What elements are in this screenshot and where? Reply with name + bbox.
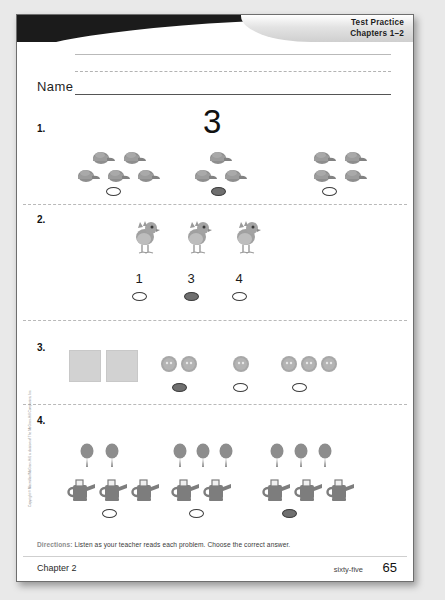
directions-label: Directions: — [37, 541, 73, 548]
chapter-label: Chapter 2 — [37, 563, 77, 573]
watering-can-icon — [260, 477, 292, 507]
button-icon — [160, 355, 178, 377]
button-icon — [300, 355, 318, 377]
button-icon — [180, 355, 198, 377]
cap-icon — [311, 149, 337, 165]
problem-2-choice-label-b: 3 — [181, 271, 201, 286]
answer-bubble-3c[interactable] — [292, 383, 307, 392]
answer-bubble-4c[interactable] — [282, 509, 297, 518]
balloon-icon — [195, 442, 211, 472]
cap-icon — [192, 167, 218, 183]
answer-bubble-2a[interactable] — [132, 292, 147, 301]
name-input-line[interactable] — [75, 94, 391, 95]
chick-icon — [184, 219, 212, 257]
block-icon — [106, 350, 138, 382]
watering-can-icon — [97, 477, 129, 507]
problem-4-number: 4. — [37, 415, 45, 426]
problem-1-number: 1. — [37, 123, 45, 134]
cap-icon — [311, 167, 337, 183]
answer-bubble-4a[interactable] — [102, 509, 117, 518]
printed-page: Test Practice Chapters 1–2 Name 1. 3 — [16, 14, 414, 582]
chick-icon — [233, 219, 261, 257]
answer-bubble-1a[interactable] — [106, 187, 121, 196]
answer-bubble-2c[interactable] — [232, 292, 247, 301]
chick-icon — [132, 219, 160, 257]
section-separator-1 — [23, 204, 407, 205]
watering-can-icon — [129, 477, 161, 507]
page-number: 65 — [383, 560, 397, 575]
answer-bubble-3b[interactable] — [233, 383, 248, 392]
copyright-notice: Copyright © Macmillan/McGraw-Hill, a div… — [28, 357, 32, 507]
answer-bubble-1b[interactable] — [211, 187, 226, 196]
balloon-icon — [218, 442, 234, 472]
header-rule-dashed — [75, 71, 391, 72]
cap-icon — [105, 167, 131, 183]
answer-bubble-3a[interactable] — [172, 383, 187, 392]
watering-can-icon — [292, 477, 324, 507]
banner-text: Test Practice Chapters 1–2 — [350, 18, 404, 39]
watering-can-icon — [169, 477, 201, 507]
balloon-icon — [293, 442, 309, 472]
page-number-word: sixty-five — [334, 565, 363, 574]
cap-icon — [121, 149, 147, 165]
section-separator-3 — [23, 404, 407, 405]
banner-line-1: Test Practice — [350, 18, 404, 29]
answer-bubble-1c[interactable] — [322, 187, 337, 196]
balloon-icon — [172, 442, 188, 472]
block-icon — [69, 350, 101, 382]
problem-2-number: 2. — [37, 214, 45, 225]
directions-text: Directions: Listen as your teacher reads… — [37, 541, 290, 548]
balloon-icon — [317, 442, 333, 472]
problem-2-choice-label-a: 1 — [129, 271, 149, 286]
watering-can-icon — [324, 477, 356, 507]
name-label: Name — [37, 79, 73, 94]
balloon-icon — [104, 442, 120, 472]
balloon-icon — [79, 442, 95, 472]
watering-can-icon — [65, 477, 97, 507]
cap-icon — [342, 149, 368, 165]
answer-bubble-4b[interactable] — [189, 509, 204, 518]
banner-line-2: Chapters 1–2 — [350, 29, 404, 40]
balloon-icon — [269, 442, 285, 472]
button-icon — [280, 355, 298, 377]
problem-1-prompt-number: 3 — [203, 103, 221, 141]
button-icon — [320, 355, 338, 377]
section-separator-2 — [23, 320, 407, 321]
directions-body: Listen as your teacher reads each proble… — [74, 541, 290, 548]
answer-bubble-2b[interactable] — [184, 292, 199, 301]
watering-can-icon — [201, 477, 233, 507]
cap-icon — [207, 149, 233, 165]
button-icon — [232, 355, 250, 377]
cap-icon — [75, 167, 101, 183]
cap-icon — [90, 149, 116, 165]
problem-3-number: 3. — [37, 342, 45, 353]
cap-icon — [135, 167, 161, 183]
header-rule-solid — [75, 54, 391, 55]
cap-icon — [222, 167, 248, 183]
problem-2-choice-label-c: 4 — [229, 271, 249, 286]
cap-icon — [342, 167, 368, 183]
footer-rule — [23, 556, 407, 557]
worksheet-page: Test Practice Chapters 1–2 Name 1. 3 — [0, 0, 445, 600]
